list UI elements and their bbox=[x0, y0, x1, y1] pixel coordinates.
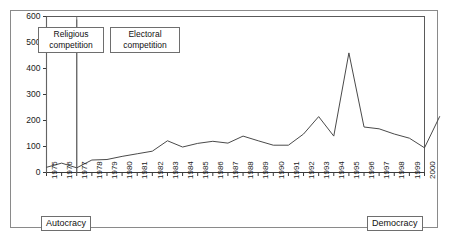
x-tick-label: 1979 bbox=[110, 161, 119, 179]
annotation-line-1: Religious bbox=[42, 29, 100, 40]
x-tick-label: 1981 bbox=[140, 161, 149, 179]
y-tick-label: 100 bbox=[15, 141, 41, 151]
x-tick-label: 1980 bbox=[125, 161, 134, 179]
annotation-line-2: competition bbox=[42, 40, 100, 51]
x-tick-label: 1984 bbox=[186, 161, 195, 179]
y-tick-label: 300 bbox=[15, 89, 41, 99]
x-tick-label: 1999 bbox=[413, 161, 422, 179]
x-tick-label: 1998 bbox=[397, 161, 406, 179]
y-tick-label: 400 bbox=[15, 63, 41, 73]
x-tick-label: 1982 bbox=[156, 161, 165, 179]
x-tick-label: 1993 bbox=[322, 161, 331, 179]
x-tick-label: 1977 bbox=[80, 161, 89, 179]
x-tick-label: 1983 bbox=[171, 161, 180, 179]
x-tick-label: 1975 bbox=[50, 161, 59, 179]
x-tick-label: 1987 bbox=[231, 161, 240, 179]
x-tick-label: 1996 bbox=[367, 161, 376, 179]
x-tick-label: 1992 bbox=[307, 161, 316, 179]
regime-label-democracy: Democracy bbox=[367, 216, 423, 231]
y-tick-label: 600 bbox=[15, 11, 41, 21]
x-tick-label: 1978 bbox=[95, 161, 104, 179]
y-tick-label: 200 bbox=[15, 115, 41, 125]
x-tick-label: 1995 bbox=[352, 161, 361, 179]
x-tick-label: 1986 bbox=[216, 161, 225, 179]
annotation-line-1: Electoral bbox=[114, 29, 176, 40]
x-tick-label: 2000 bbox=[428, 161, 437, 179]
x-tick-label: 1990 bbox=[277, 161, 286, 179]
x-tick-label: 1985 bbox=[201, 161, 210, 179]
x-tick-label: 1988 bbox=[246, 161, 255, 179]
x-tick-label: 1991 bbox=[292, 161, 301, 179]
y-tick-label: 500 bbox=[15, 37, 41, 47]
y-tick-label: 0 bbox=[15, 167, 41, 177]
annotation-electoral-competition: Electoral competition bbox=[110, 27, 180, 53]
x-tick-label: 1976 bbox=[65, 161, 74, 179]
x-tick-label: 1994 bbox=[337, 161, 346, 179]
annotation-religious-competition: Religious competition bbox=[38, 27, 104, 53]
chart-figure: 0100200300400500600 19751976197719781979… bbox=[0, 0, 450, 244]
x-tick-label: 1997 bbox=[382, 161, 391, 179]
annotation-line-2: competition bbox=[114, 40, 176, 51]
regime-label-autocracy: Autocracy bbox=[41, 216, 91, 231]
x-tick-label: 1989 bbox=[261, 161, 270, 179]
